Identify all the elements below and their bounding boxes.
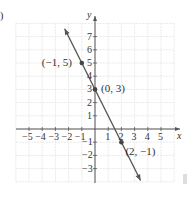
point-label: (2, −1) [125, 145, 155, 157]
coordinate-plane [0, 0, 195, 200]
point-label: (0, 3) [101, 82, 125, 94]
axes [16, 16, 180, 183]
point-label: (−1, 5) [42, 56, 72, 68]
y-tick-label: 7 [87, 31, 92, 42]
y-tick-label: 5 [87, 57, 92, 68]
x-tick-label: 5 [158, 131, 163, 142]
graph-line [65, 29, 141, 181]
y-tick-label: 2 [87, 97, 92, 108]
x-axis-label: x [177, 130, 181, 141]
x-tick-label: −2 [62, 131, 73, 142]
edge-fragment [183, 174, 187, 184]
y-axis-label: y [87, 9, 91, 20]
y-tick-label: 3 [87, 83, 92, 94]
y-tick-label: −3 [82, 163, 93, 174]
x-tick-label: −5 [22, 131, 33, 142]
x-tick-label: 2 [118, 131, 123, 142]
y-tick-label: 6 [87, 44, 92, 55]
x-tick-label: −3 [48, 131, 59, 142]
y-tick-label: 4 [87, 70, 92, 81]
x-tick-label: −4 [35, 131, 46, 142]
x-tick-label: 4 [145, 131, 150, 142]
x-tick-label: 1 [105, 131, 110, 142]
y-tick-label: −2 [82, 149, 93, 160]
corner-label: ) [0, 10, 3, 21]
x-tick-label: 3 [132, 131, 137, 142]
y-tick-label: 1 [87, 110, 92, 121]
y-tick-label: −1 [82, 136, 93, 147]
